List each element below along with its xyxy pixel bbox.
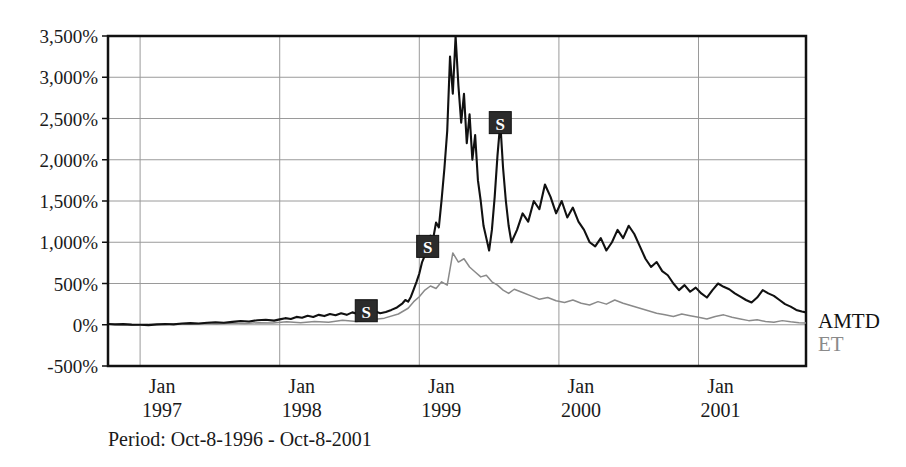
split-marker-label: S [362, 303, 371, 322]
event-markers-group: SSS [355, 112, 511, 322]
y-tick-label: 0% [73, 315, 99, 336]
x-tick-label-year: 2001 [701, 399, 741, 421]
x-tick-label-month: Jan [707, 375, 734, 397]
split-marker-label: S [423, 238, 432, 257]
series-line-amtd [108, 36, 806, 325]
chart-canvas: 3,500%3,000%2,500%2,000%1,500%1,000%500%… [0, 0, 906, 467]
split-marker-label: S [496, 115, 505, 134]
y-axis-labels-group: 3,500%3,000%2,500%2,000%1,500%1,000%500%… [39, 26, 108, 377]
x-tick-label-month: Jan [288, 375, 315, 397]
legend-label-amtd: AMTD [818, 309, 880, 333]
x-tick-label-year: 1999 [421, 399, 461, 421]
y-tick-label: 500% [54, 274, 99, 295]
x-tick-label-month: Jan [568, 375, 595, 397]
y-tick-label: 1,000% [39, 232, 98, 253]
y-tick-label: 3,500% [39, 26, 98, 47]
series-group [108, 36, 806, 325]
y-tick-label: -500% [47, 356, 98, 377]
legend-group: AMTDET [818, 309, 880, 356]
period-caption: Period: Oct-8-1996 - Oct-8-2001 [108, 428, 372, 450]
y-tick-label: 2,500% [39, 109, 98, 130]
x-tick-label-year: 1997 [142, 399, 182, 421]
x-tick-label-month: Jan [149, 375, 176, 397]
y-tick-label: 1,500% [39, 191, 98, 212]
y-tick-label: 3,000% [39, 67, 98, 88]
legend-label-et: ET [818, 332, 844, 356]
stock-performance-chart-figure: 3,500%3,000%2,500%2,000%1,500%1,000%500%… [0, 0, 906, 467]
x-tick-label-year: 1998 [282, 399, 322, 421]
x-tick-label-month: Jan [428, 375, 455, 397]
x-axis-labels-group: Jan1997Jan1998Jan1999Jan2000Jan2001 [142, 375, 740, 421]
x-tick-label-year: 2000 [561, 399, 601, 421]
y-tick-label: 2,000% [39, 150, 98, 171]
series-line-et [108, 253, 806, 325]
gridlines-group [108, 36, 806, 366]
